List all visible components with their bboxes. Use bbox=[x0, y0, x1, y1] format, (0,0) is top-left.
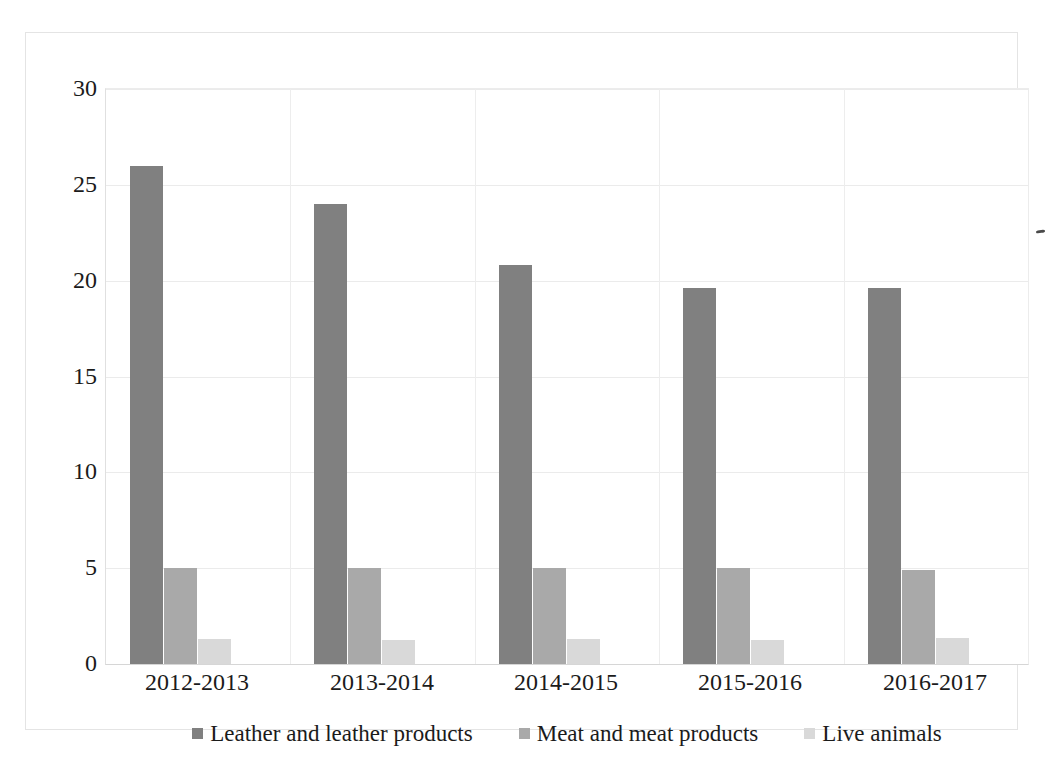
legend-label: Leather and leather products bbox=[210, 722, 472, 745]
bar-group-2013-2014 bbox=[314, 89, 474, 664]
bar[interactable] bbox=[751, 640, 784, 664]
bar[interactable] bbox=[868, 288, 901, 664]
scan-artifact-mark bbox=[1036, 229, 1045, 233]
bar-group-2014-2015 bbox=[499, 89, 659, 664]
y-axis-tick-label: 20 bbox=[51, 268, 97, 292]
bar[interactable] bbox=[499, 265, 532, 664]
bar[interactable] bbox=[130, 166, 163, 664]
x-axis-tick-label: 2015-2016 bbox=[698, 669, 802, 697]
legend-label: Live animals bbox=[822, 722, 941, 745]
legend-swatch-icon bbox=[804, 728, 815, 739]
x-axis-tick-label: 2012-2013 bbox=[145, 669, 249, 697]
bar[interactable] bbox=[314, 204, 347, 664]
bar[interactable] bbox=[198, 639, 231, 664]
gridline-0 bbox=[106, 664, 1028, 665]
y-axis: 051015202530 bbox=[47, 88, 97, 665]
bar-group-2015-2016 bbox=[683, 89, 843, 664]
bar[interactable] bbox=[382, 640, 415, 664]
category-divider bbox=[844, 89, 845, 664]
bar[interactable] bbox=[164, 568, 197, 664]
legend-item[interactable]: Leather and leather products bbox=[192, 722, 472, 745]
bar[interactable] bbox=[683, 288, 716, 664]
y-axis-tick-label: 10 bbox=[51, 459, 97, 483]
bar[interactable] bbox=[717, 568, 750, 664]
chart-frame: 051015202530 2012-20132013-20142014-2015… bbox=[25, 32, 1018, 730]
category-divider bbox=[659, 89, 660, 664]
category-divider bbox=[475, 89, 476, 664]
chart-legend: Leather and leather productsMeat and mea… bbox=[105, 716, 1029, 750]
x-axis-tick-label: 2013-2014 bbox=[330, 669, 434, 697]
bar-group-2012-2013 bbox=[130, 89, 290, 664]
bar[interactable] bbox=[533, 568, 566, 664]
bar[interactable] bbox=[936, 638, 969, 664]
x-axis: 2012-20132013-20142014-20152015-20162016… bbox=[105, 669, 1029, 709]
bar[interactable] bbox=[902, 570, 935, 664]
bar[interactable] bbox=[348, 568, 381, 664]
plot-area bbox=[105, 88, 1029, 665]
bar[interactable] bbox=[567, 639, 600, 664]
legend-swatch-icon bbox=[192, 728, 203, 739]
category-divider bbox=[290, 89, 291, 664]
bar-group-2016-2017 bbox=[868, 89, 1028, 664]
legend-label: Meat and meat products bbox=[537, 722, 759, 745]
x-axis-tick-label: 2014-2015 bbox=[514, 669, 618, 697]
x-axis-tick-label: 2016-2017 bbox=[883, 669, 987, 697]
y-axis-tick-label: 15 bbox=[51, 364, 97, 388]
legend-item[interactable]: Live animals bbox=[804, 722, 941, 745]
y-axis-tick-label: 5 bbox=[51, 555, 97, 579]
y-axis-tick-label: 0 bbox=[51, 651, 97, 675]
legend-item[interactable]: Meat and meat products bbox=[519, 722, 759, 745]
y-axis-tick-label: 25 bbox=[51, 172, 97, 196]
legend-swatch-icon bbox=[519, 728, 530, 739]
y-axis-tick-label: 30 bbox=[51, 76, 97, 100]
